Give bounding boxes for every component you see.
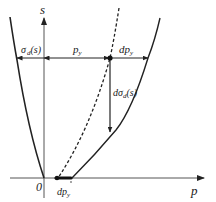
origin-label: 0 <box>36 180 42 194</box>
p-axis-label: p <box>190 183 198 198</box>
intersection-dot <box>107 55 112 60</box>
dp-y-tick-dot <box>70 181 72 183</box>
dp-y-bottom-label: dpy <box>57 186 71 199</box>
sigma-d-label: σd(s) <box>21 44 42 57</box>
left-yield-curve <box>10 17 44 178</box>
dp-y-axis-dot <box>55 176 59 180</box>
p-y-label: py <box>72 43 83 57</box>
dp-y-top-label: dpy <box>119 43 134 57</box>
diagram-canvas: s p 0 σd(s) py dpy dσd(s) dpy <box>0 0 216 202</box>
right-yield-curve <box>72 18 160 178</box>
s-axis-label: s <box>40 2 45 17</box>
